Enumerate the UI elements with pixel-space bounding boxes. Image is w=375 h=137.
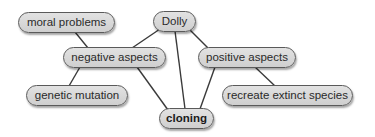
edge-positive-cloning (200, 67, 215, 109)
edge-negative-cloning (137, 67, 168, 110)
node-cloning[interactable]: cloning (159, 108, 214, 129)
node-moral-problems[interactable]: moral problems (18, 12, 115, 33)
node-dolly[interactable]: Dolly (153, 11, 196, 32)
edge-negative-genetic (69, 67, 80, 86)
edge-positive-recreate (255, 67, 275, 86)
node-negative-aspects[interactable]: negative aspects (63, 47, 166, 68)
edge-dolly-positive (190, 30, 208, 48)
edge-dolly-cloning (175, 31, 185, 109)
edge-dolly-negative (132, 29, 160, 48)
node-recreate-extinct-species[interactable]: recreate extinct species (222, 85, 353, 106)
edge-moral-negative (75, 32, 88, 48)
node-positive-aspects[interactable]: positive aspects (198, 47, 296, 68)
node-genetic-mutation[interactable]: genetic mutation (26, 85, 128, 106)
